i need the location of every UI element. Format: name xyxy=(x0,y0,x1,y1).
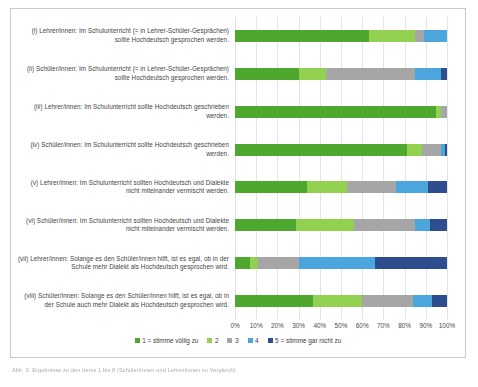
bar-segment-2[interactable] xyxy=(296,219,353,231)
bar-segment-2[interactable] xyxy=(299,68,327,80)
category-label: (v) Lehrer/innen: Im Schulunterricht sol… xyxy=(17,179,235,196)
chart-row: (viii) Schüler/innen: Solange es den Sch… xyxy=(17,282,461,320)
x-axis-tick: 10% xyxy=(250,321,263,331)
bar-segment-4[interactable] xyxy=(299,257,375,269)
bar-segment-1[interactable] xyxy=(235,106,436,118)
bar-segment-3[interactable] xyxy=(415,30,423,42)
bar-segment-1[interactable] xyxy=(235,144,407,156)
legend-swatch-icon xyxy=(268,338,273,343)
bar-segment-5[interactable] xyxy=(375,257,447,269)
bar-cell xyxy=(235,93,461,131)
legend-item[interactable]: 2 xyxy=(207,337,218,344)
bar-segment-2[interactable] xyxy=(407,144,422,156)
legend-label: 2 xyxy=(215,337,219,344)
chart-legend: 1 = stimme völlig zu2345 = stimme gar ni… xyxy=(11,337,465,344)
bar-segment-3[interactable] xyxy=(354,219,415,231)
bar-segment-3[interactable] xyxy=(441,106,447,118)
x-axis-tick: 50% xyxy=(335,321,348,331)
bar-segment-2[interactable] xyxy=(307,181,347,193)
chart-plot-area: (i) Lehrer/innen: Im Schulunterricht (= … xyxy=(11,9,465,357)
legend-item[interactable]: 5 = stimme gar nicht zu xyxy=(268,337,342,344)
x-axis-tick: 70% xyxy=(377,321,390,331)
legend-swatch-icon xyxy=(248,338,253,343)
bar-cell xyxy=(235,17,461,55)
stacked-bar[interactable] xyxy=(235,106,447,118)
x-axis-tick: 80% xyxy=(398,321,411,331)
bar-segment-5[interactable] xyxy=(430,219,447,231)
bar-segment-4[interactable] xyxy=(413,295,432,307)
legend-swatch-icon xyxy=(135,338,140,343)
legend-swatch-icon xyxy=(207,338,212,343)
category-label: (i) Lehrer/innen: Im Schulunterricht (= … xyxy=(17,27,235,44)
chart-frame: (i) Lehrer/innen: Im Schulunterricht (= … xyxy=(10,8,466,358)
bar-segment-2[interactable] xyxy=(369,30,416,42)
bar-segment-3[interactable] xyxy=(362,295,413,307)
category-label: (iv) Schüler/innen: Im Schulunterricht s… xyxy=(17,141,235,158)
x-axis-tick: 20% xyxy=(271,321,284,331)
bar-segment-3[interactable] xyxy=(347,181,396,193)
category-label: (ii) Schüler/innen: Im Schulunterricht (… xyxy=(17,65,235,82)
category-label: (iii) Lehrer/innen: Im Schulunterricht s… xyxy=(17,103,235,120)
legend-label: 1 = stimme völlig zu xyxy=(142,337,198,344)
bar-cell xyxy=(235,244,461,282)
chart-row: (iv) Schüler/innen: Im Schulunterricht s… xyxy=(17,131,461,169)
chart-row: (iii) Lehrer/innen: Im Schulunterricht s… xyxy=(17,93,461,131)
legend-label: 5 = stimme gar nicht zu xyxy=(275,337,341,344)
bar-segment-3[interactable] xyxy=(258,257,298,269)
stacked-bar[interactable] xyxy=(235,219,447,231)
chart-row: (vii) Lehrer/innen: Solange es den Schül… xyxy=(17,244,461,282)
bar-segment-1[interactable] xyxy=(235,257,250,269)
legend-item[interactable]: 1 = stimme völlig zu xyxy=(135,337,199,344)
legend-item[interactable]: 3 xyxy=(227,337,238,344)
category-label: (vii) Lehrer/innen: Solange es den Schül… xyxy=(17,255,235,272)
bar-segment-2[interactable] xyxy=(250,257,258,269)
x-axis-tick: 100% xyxy=(439,321,455,331)
legend-label: 3 xyxy=(235,337,239,344)
category-label: (viii) Schüler/innen: Solange es den Sch… xyxy=(17,292,235,309)
category-label: (vi) Schüler/innen: Im Schulunterricht s… xyxy=(17,217,235,234)
bar-segment-4[interactable] xyxy=(415,68,440,80)
bar-cell xyxy=(235,206,461,244)
x-axis-tick: 40% xyxy=(313,321,326,331)
stacked-bar[interactable] xyxy=(235,144,447,156)
stacked-bar[interactable] xyxy=(235,295,447,307)
bar-cell xyxy=(235,131,461,169)
x-axis-tick: 60% xyxy=(356,321,369,331)
bar-segment-1[interactable] xyxy=(235,68,299,80)
bar-segment-3[interactable] xyxy=(422,144,441,156)
chart-row: (i) Lehrer/innen: Im Schulunterricht (= … xyxy=(17,17,461,55)
legend-swatch-icon xyxy=(227,338,232,343)
chart-row: (v) Lehrer/innen: Im Schulunterricht sol… xyxy=(17,169,461,207)
bar-segment-1[interactable] xyxy=(235,30,369,42)
bar-segment-5[interactable] xyxy=(428,181,447,193)
x-axis-tick: 30% xyxy=(292,321,305,331)
x-axis-tick: 0% xyxy=(230,321,239,331)
legend-label: 4 xyxy=(255,337,259,344)
bar-segment-1[interactable] xyxy=(235,181,307,193)
chart-row: (vi) Schüler/innen: Im Schulunterricht s… xyxy=(17,206,461,244)
stacked-bar[interactable] xyxy=(235,68,447,80)
figure-caption: Abb. 3: Ergebnisse zu den Items 1 bis 8 … xyxy=(12,366,464,374)
stacked-bar[interactable] xyxy=(235,30,447,42)
chart-row: (ii) Schüler/innen: Im Schulunterricht (… xyxy=(17,55,461,93)
bar-segment-2[interactable] xyxy=(313,295,362,307)
bar-rows: (i) Lehrer/innen: Im Schulunterricht (= … xyxy=(17,17,461,320)
bar-segment-5[interactable] xyxy=(432,295,447,307)
bar-cell xyxy=(235,55,461,93)
bar-cell xyxy=(235,169,461,207)
bar-segment-4[interactable] xyxy=(424,30,447,42)
stacked-bar[interactable] xyxy=(235,181,447,193)
bar-segment-5[interactable] xyxy=(445,144,447,156)
bar-segment-3[interactable] xyxy=(326,68,415,80)
x-axis: 0%10%20%30%40%50%60%70%80%90%100% xyxy=(235,321,447,335)
bar-segment-4[interactable] xyxy=(396,181,428,193)
bar-cell xyxy=(235,282,461,320)
bar-segment-1[interactable] xyxy=(235,295,313,307)
stacked-bar[interactable] xyxy=(235,257,447,269)
bar-segment-5[interactable] xyxy=(441,68,447,80)
bar-segment-4[interactable] xyxy=(415,219,430,231)
x-axis-tick: 90% xyxy=(419,321,432,331)
bar-segment-1[interactable] xyxy=(235,219,296,231)
legend-item[interactable]: 4 xyxy=(248,337,259,344)
